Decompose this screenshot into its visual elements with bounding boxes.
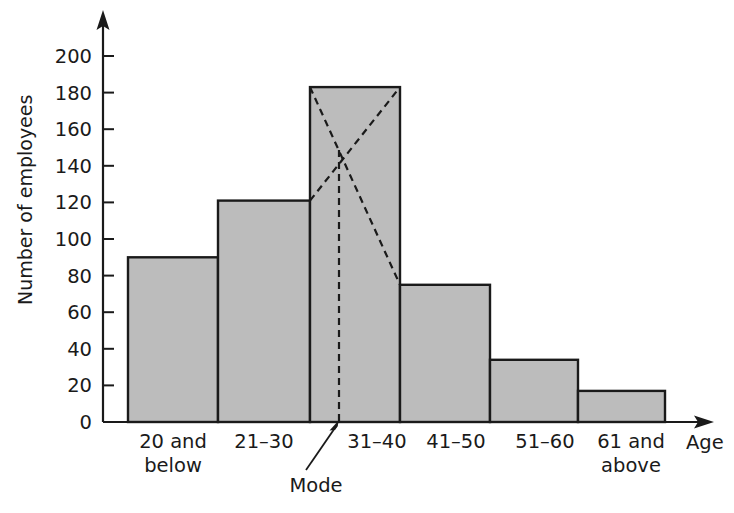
histogram-chart: 0 20 40 60 80 100 — [0, 0, 734, 513]
category-label-line1: 20 and — [139, 430, 207, 453]
category-label-20-and-below: 20 and below — [139, 430, 207, 477]
mode-label: Mode — [289, 474, 342, 497]
y-tick-60: 60 — [67, 301, 114, 324]
category-label-41-50: 41–50 — [426, 430, 485, 453]
mode-annotation: Mode — [289, 420, 342, 497]
y-tick-200: 200 — [55, 45, 114, 68]
category-label-line1: 51–60 — [515, 430, 574, 453]
y-tick-label: 20 — [67, 374, 92, 397]
y-tick-label: 60 — [67, 301, 92, 324]
x-axis-title: Age — [686, 431, 724, 454]
category-label-line1: 41–50 — [426, 430, 485, 453]
bar-20-and-below — [128, 257, 218, 422]
category-label-line2: above — [601, 454, 661, 477]
y-tick-100: 100 — [55, 228, 114, 251]
y-tick-label: 160 — [55, 118, 92, 141]
bars-group — [128, 87, 665, 422]
y-tick-label: 140 — [55, 155, 92, 178]
y-tick-label: 0 — [80, 411, 92, 434]
y-tick-40: 40 — [67, 338, 114, 361]
category-label-line2: below — [144, 454, 202, 477]
y-tick-label: 100 — [55, 228, 92, 251]
y-axis-title: Number of employees — [14, 95, 36, 305]
bar-21-30 — [218, 201, 310, 422]
category-label-51-60: 51–60 — [515, 430, 574, 453]
y-tick-0: 0 — [80, 411, 114, 434]
y-tick-label: 120 — [55, 191, 92, 214]
y-tick-20: 20 — [67, 374, 114, 397]
y-tick-120: 120 — [55, 191, 114, 214]
y-tick-180: 180 — [55, 82, 114, 105]
bar-61-and-above — [578, 391, 665, 422]
category-label-61-and-above: 61 and above — [597, 430, 665, 477]
category-label-line1: 31–40 — [347, 430, 406, 453]
category-label-31-40: 31–40 — [347, 430, 406, 453]
bar-41-50 — [400, 285, 490, 422]
bar-51-60 — [490, 360, 578, 422]
y-tick-label: 40 — [67, 338, 92, 361]
y-tick-label: 180 — [55, 82, 92, 105]
chart-canvas: 0 20 40 60 80 100 — [0, 0, 734, 513]
mode-leader-line — [306, 425, 337, 470]
y-tick-label: 80 — [67, 265, 92, 288]
y-tick-160: 160 — [55, 118, 114, 141]
x-axis-category-labels: 20 and below 21–30 31–40 41–50 51–60 61 … — [139, 430, 665, 477]
y-tick-140: 140 — [55, 155, 114, 178]
y-axis-ticks: 0 20 40 60 80 100 — [55, 45, 114, 434]
y-tick-label: 200 — [55, 45, 92, 68]
y-tick-80: 80 — [67, 265, 114, 288]
category-label-line1: 61 and — [597, 430, 665, 453]
category-label-line1: 21–30 — [234, 430, 293, 453]
category-label-21-30: 21–30 — [234, 430, 293, 453]
y-axis — [97, 10, 110, 422]
